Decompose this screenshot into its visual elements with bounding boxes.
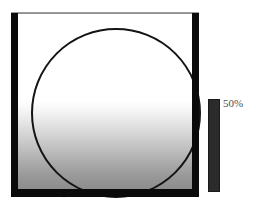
frame-bottom-edge (11, 189, 199, 197)
frame-right-edge (192, 13, 199, 197)
scale-label: 50% (223, 97, 243, 110)
figure-canvas: 50% (0, 0, 256, 213)
sphere-panel (11, 12, 199, 197)
sphere-circle-outline (31, 28, 201, 198)
frame-left-edge (11, 13, 18, 197)
frame-top-edge (18, 13, 192, 14)
scale-bar (208, 99, 220, 192)
